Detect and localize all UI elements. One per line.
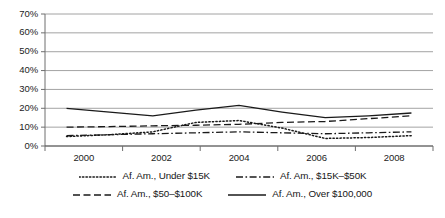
x-axis-tick-label: 2004 xyxy=(219,152,259,163)
legend-label: Af. Am., $50–$100K xyxy=(117,188,202,199)
legend-item-15k-50k[interactable]: Af. Am., $15K–$50K xyxy=(236,166,366,184)
legend-swatch-dotted-icon xyxy=(79,169,117,181)
y-axis-tick-label: 70% xyxy=(6,8,38,19)
y-axis-tick-label: 50% xyxy=(6,45,38,56)
series-line-3 xyxy=(67,105,412,117)
legend-swatch-dashed-icon xyxy=(73,187,111,199)
y-axis-tick-label: 40% xyxy=(6,64,38,75)
y-axis-tick-label: 10% xyxy=(6,121,38,132)
x-axis-tick-label: 2006 xyxy=(297,152,337,163)
legend-row-2: Af. Am., $50–$100K Af. Am., Over $100,00… xyxy=(0,184,445,202)
x-axis-tick-label: 2002 xyxy=(141,152,181,163)
series-line-1 xyxy=(67,132,412,136)
x-tick-marks xyxy=(45,146,433,151)
legend-item-50k-100k[interactable]: Af. Am., $50–$100K xyxy=(73,184,202,202)
y-axis-tick-label: 60% xyxy=(6,26,38,37)
y-tick-marks xyxy=(41,14,45,146)
y-axis-tick-label: 30% xyxy=(6,83,38,94)
y-axis-tick-label: 20% xyxy=(6,102,38,113)
y-axis-tick-label: 0% xyxy=(6,140,38,151)
x-axis-tick-label: 2008 xyxy=(374,152,414,163)
legend-row-1: Af. Am., Under $15K Af. Am., $15K–$50K xyxy=(0,166,445,184)
legend-item-under-15k[interactable]: Af. Am., Under $15K xyxy=(79,166,210,184)
legend-label: Af. Am., $15K–$50K xyxy=(280,170,366,181)
legend-item-over-100000[interactable]: Af. Am., Over $100,000 xyxy=(228,184,372,202)
x-axis-tick-label: 2000 xyxy=(64,152,104,163)
line-chart: 70%60%50%40%30%20%10%0% 2000200220042006… xyxy=(0,0,445,218)
legend-swatch-dash-dot-icon xyxy=(236,169,274,181)
series-line-0 xyxy=(67,121,412,139)
legend-label: Af. Am., Under $15K xyxy=(123,170,210,181)
legend-swatch-solid-icon xyxy=(228,187,266,199)
series-lines xyxy=(67,105,412,138)
series-line-2 xyxy=(67,116,412,127)
legend-label: Af. Am., Over $100,000 xyxy=(272,188,372,199)
chart-legend: Af. Am., Under $15K Af. Am., $15K–$50K A… xyxy=(0,166,445,210)
